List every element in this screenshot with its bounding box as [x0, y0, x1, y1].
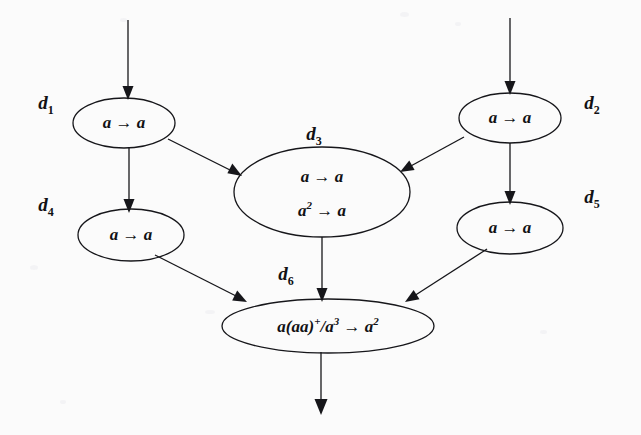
derivation-graph: a → a d1 a → a d2 a → a a2 → a d3 a → a …	[0, 0, 641, 435]
node-d1[interactable]: a → a d1	[38, 92, 175, 148]
edge-d1-to-d4	[124, 148, 135, 213]
node-d3-rule-line-2: a2 → a	[298, 199, 347, 220]
node-d6[interactable]: a(aa)+/a3 → a2 d6	[222, 263, 434, 353]
node-d4[interactable]: a → a d4	[38, 194, 184, 261]
node-d3[interactable]: a → a a2 → a d3	[234, 123, 410, 237]
node-d2-label: d2	[584, 92, 600, 116]
node-d5[interactable]: a → a d5	[457, 186, 600, 254]
node-d3-label: d3	[306, 123, 322, 147]
node-d1-rule-line-1: a → a	[103, 113, 146, 132]
node-d6-rule-line-1: a(aa)+/a3 → a2	[277, 315, 379, 336]
edge-input-to-d1	[123, 20, 134, 100]
node-d5-rule-line-1: a → a	[489, 218, 532, 237]
diagram-canvas: a → a d1 a → a d2 a → a a2 → a d3 a → a …	[0, 0, 641, 435]
node-d4-label: d4	[38, 194, 54, 218]
edge-d2-to-d5	[505, 143, 516, 205]
node-d2[interactable]: a → a d2	[459, 92, 600, 143]
node-d5-label: d5	[584, 186, 600, 210]
node-d1-label: d1	[38, 92, 54, 116]
node-d3-rule-line-1: a → a	[301, 167, 344, 186]
edge-d3-to-d6	[317, 237, 328, 302]
node-d4-rule-line-1: a → a	[110, 225, 153, 244]
edge-input-to-d2	[505, 18, 516, 95]
edge-d1-to-d3	[168, 139, 242, 176]
edge-d5-to-d6	[405, 249, 487, 302]
edge-d4-to-d6	[155, 255, 247, 302]
node-d3-ellipse[interactable]	[234, 147, 410, 237]
node-d6-label: d6	[278, 263, 294, 287]
edge-d6-to-output	[315, 352, 328, 415]
node-d2-rule-line-1: a → a	[489, 108, 532, 127]
edge-d2-to-d3	[400, 137, 464, 172]
